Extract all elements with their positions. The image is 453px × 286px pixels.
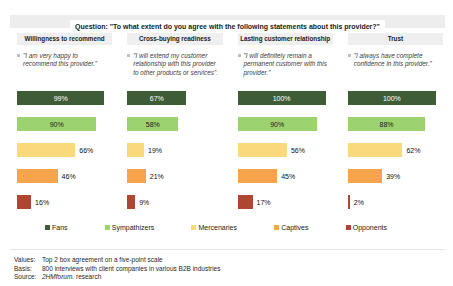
panel-cross-buying-readiness: Cross-buying readiness"I will extend my …	[127, 33, 222, 221]
footnote-source-label: Source:	[14, 273, 42, 282]
footnote-basis-label: Basis:	[14, 265, 42, 274]
bar-captives	[17, 169, 58, 183]
bar-value-label: 58%	[127, 117, 178, 131]
legend: FansSympathizersMercenariesCaptivesOppon…	[45, 224, 387, 231]
panel-header: Cross-buying readiness	[127, 33, 222, 45]
bar-row-captives: 21%	[127, 169, 222, 183]
footnotes: Values: Top 2 box agreement on a five-po…	[14, 256, 220, 282]
question-band: Question: "To what extent do you agree w…	[10, 15, 445, 28]
bar-value-label: 21%	[150, 173, 164, 180]
bar-sympathizers: 88%	[348, 117, 426, 131]
bar-sympathizers: 90%	[17, 117, 96, 131]
panel-header: Willingness to recommend	[17, 33, 112, 45]
bar-value-label: 100%	[348, 91, 436, 105]
bar-value-label: 46%	[62, 173, 76, 180]
bar-value-label: 62%	[406, 147, 420, 154]
quote-text: "I always have complete confidence in th…	[354, 52, 443, 85]
footnote-basis-text: 800 interviews with client companies in …	[42, 265, 220, 274]
bar-value-label: 2%	[354, 199, 364, 206]
bar-row-captives: 39%	[348, 169, 443, 183]
bar-value-label: 66%	[79, 147, 93, 154]
bar-row-fans: 99%	[17, 91, 112, 105]
bullet-icon	[238, 54, 241, 57]
bullet-icon	[348, 54, 351, 57]
panel-willingness-to-recommend: Willingness to recommend"I am very happy…	[17, 33, 112, 221]
legend-item-sympathizers: Sympathizers	[105, 224, 154, 231]
bar-value-label: 56%	[291, 147, 305, 154]
bar-captives	[127, 169, 146, 183]
bar-row-mercenaries: 19%	[127, 143, 222, 157]
bar-group: 100%88%62%39%2%	[348, 91, 443, 209]
bar-row-opponents: 17%	[238, 195, 333, 209]
bar-row-opponents: 9%	[127, 195, 222, 209]
bar-mercenaries	[127, 143, 144, 157]
footnote-values-label: Values:	[14, 256, 42, 265]
panel-lasting-customer-relationship: Lasting customer relationship"I will def…	[238, 33, 333, 221]
panel-quote: "I always have complete confidence in th…	[348, 52, 443, 85]
bar-value-label: 39%	[386, 173, 400, 180]
bar-value-label: 99%	[17, 91, 104, 105]
bar-fans: 100%	[238, 91, 326, 105]
bar-value-label: 67%	[127, 91, 186, 105]
legend-swatch-icon	[105, 225, 110, 230]
panel-quote: "I am very happy to recommend this provi…	[17, 52, 112, 85]
bar-row-sympathizers: 90%	[17, 117, 112, 131]
legend-swatch-icon	[274, 225, 279, 230]
bar-sympathizers: 90%	[238, 117, 317, 131]
bar-opponents	[17, 195, 31, 209]
footnote-values: Values: Top 2 box agreement on a five-po…	[14, 256, 220, 265]
bar-value-label: 16%	[35, 199, 49, 206]
footnote-values-text: Top 2 box agreement on a five-point scal…	[42, 256, 163, 265]
bar-captives	[348, 169, 382, 183]
bar-value-label: 90%	[17, 117, 96, 131]
panel-quote: "I will definitely remain a permanent cu…	[238, 52, 333, 85]
bar-row-fans: 100%	[348, 91, 443, 105]
bar-fans: 99%	[17, 91, 104, 105]
bar-group: 67%58%19%21%9%	[127, 91, 222, 209]
bar-value-label: 19%	[148, 147, 162, 154]
legend-label: Opponents	[353, 224, 387, 231]
bar-value-label: 9%	[139, 199, 149, 206]
bar-row-mercenaries: 62%	[348, 143, 443, 157]
bar-fans: 67%	[127, 91, 186, 105]
footnote-basis: Basis: 800 interviews with client compan…	[14, 265, 220, 274]
bar-fans: 100%	[348, 91, 436, 105]
legend-item-mercenaries: Mercenaries	[191, 224, 237, 231]
bar-value-label: 45%	[281, 173, 295, 180]
legend-label: Sympathizers	[112, 224, 154, 231]
footnote-source: Source: 2HMforum. research	[14, 273, 220, 282]
bar-row-fans: 67%	[127, 91, 222, 105]
legend-swatch-icon	[45, 225, 50, 230]
legend-label: Mercenaries	[198, 224, 237, 231]
bar-group: 99%90%66%46%16%	[17, 91, 112, 209]
bar-opponents	[238, 195, 253, 209]
panel-header: Trust	[348, 33, 443, 45]
legend-swatch-icon	[346, 225, 351, 230]
bar-row-fans: 100%	[238, 91, 333, 105]
bullet-icon	[17, 54, 20, 57]
bar-row-mercenaries: 66%	[17, 143, 112, 157]
bar-row-sympathizers: 58%	[127, 117, 222, 131]
bar-value-label: 88%	[348, 117, 426, 131]
panel-header: Lasting customer relationship	[238, 33, 333, 45]
bar-value-label: 17%	[257, 199, 271, 206]
quote-text: "I will extend my customer relationship …	[133, 52, 222, 85]
bar-mercenaries	[348, 143, 403, 157]
bar-opponents	[348, 195, 350, 209]
bar-value-label: 90%	[238, 117, 317, 131]
legend-label: Fans	[52, 224, 68, 231]
bar-row-mercenaries: 56%	[238, 143, 333, 157]
bar-mercenaries	[238, 143, 287, 157]
bar-row-captives: 46%	[17, 169, 112, 183]
bar-row-opponents: 2%	[348, 195, 443, 209]
panel-trust: Trust"I always have complete confidence …	[348, 33, 443, 221]
bar-mercenaries	[17, 143, 75, 157]
quote-text: "I am very happy to recommend this provi…	[23, 52, 112, 85]
footer-divider	[10, 249, 445, 250]
panel-quote: "I will extend my customer relationship …	[127, 52, 222, 85]
footnote-source-text: 2HMforum. research	[42, 273, 101, 282]
panels: Willingness to recommend"I am very happy…	[17, 33, 443, 221]
legend-swatch-icon	[191, 225, 196, 230]
legend-item-opponents: Opponents	[346, 224, 387, 231]
bar-captives	[238, 169, 278, 183]
